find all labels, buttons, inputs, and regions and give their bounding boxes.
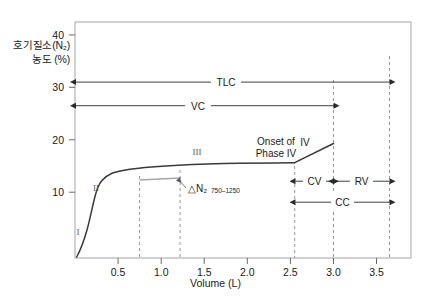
- phase-label-i: I: [77, 227, 80, 237]
- x-tick-label-3_5: 3.5: [369, 266, 384, 278]
- phase-label-iii: III: [193, 147, 202, 157]
- x-tick-label-1_0: 1.0: [154, 266, 169, 278]
- measurement-label-cv: CV: [308, 176, 322, 187]
- phase-label-iv: IV: [300, 137, 310, 148]
- measurement-cc: CC: [296, 194, 390, 210]
- y-tick-label-10: 10: [52, 186, 64, 198]
- x-tick-label-0_5: 0.5: [111, 266, 126, 278]
- onset-phase-iv-annotation: Onset of Phase IV: [256, 136, 297, 159]
- x-axis-ticks: 0.5 1.0 1.5 2.0 2.5 3.0 3.5: [111, 258, 384, 278]
- measurement-label-rv: RV: [355, 176, 369, 187]
- x-tick-label-2_0: 2.0: [240, 266, 255, 278]
- y-tick-label-30: 30: [52, 81, 64, 93]
- measurement-label-vc: VC: [191, 101, 205, 112]
- onset-phase-iv-line1: Onset of: [257, 136, 295, 147]
- n2-washout-chart: 40 30 20 10 0.5 1.0 1.5 2.0 2.5 3.0 3.5 …: [0, 0, 431, 299]
- phase-label-ii: II: [93, 183, 99, 193]
- delta-n2-annotation: △N₂ 750–1250: [188, 183, 240, 194]
- delta-n2-label: △N₂: [188, 183, 207, 194]
- measurement-rv: RV: [334, 173, 389, 189]
- x-tick-label-1_5: 1.5: [197, 266, 212, 278]
- y-tick-label-20: 20: [52, 134, 64, 146]
- onset-phase-iv-line2: Phase IV: [256, 148, 297, 159]
- measurement-label-cc: CC: [335, 197, 349, 208]
- delta-n2-reference-segment: [140, 178, 186, 188]
- measurement-tlc: TLC: [76, 74, 390, 90]
- y-tick-label-40: 40: [52, 29, 64, 41]
- measurement-vc: VC: [76, 98, 334, 114]
- measurement-label-tlc: TLC: [217, 77, 236, 88]
- delta-n2-subscript: 750–1250: [211, 187, 240, 194]
- plot-frame: [75, 22, 411, 258]
- measurement-cv: CV: [296, 173, 333, 189]
- x-tick-label-2_5: 2.5: [283, 266, 298, 278]
- y-axis-ticks: 40 30 20 10: [52, 29, 75, 198]
- x-tick-label-3_0: 3.0: [326, 266, 341, 278]
